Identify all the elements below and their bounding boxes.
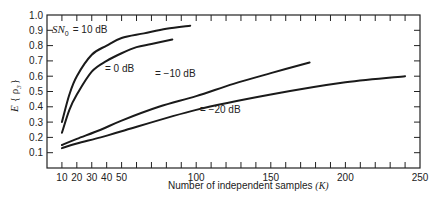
x-tick-label: 200 (337, 172, 354, 183)
x-tick-label: 250 (412, 172, 429, 183)
y-tick-label: 1.0 (29, 10, 43, 21)
y-axis-ticks (47, 30, 420, 152)
plot-frame (47, 15, 420, 168)
chart: 1020304050100150200250 0.10.20.30.40.50.… (0, 0, 436, 200)
y-tick-label: 0.5 (29, 86, 43, 97)
curves (62, 26, 405, 148)
y-tick-label: 0.3 (29, 117, 43, 128)
y-axis-label: E{ ρ3} (8, 79, 23, 113)
x-tick-label: 40 (101, 172, 113, 183)
y-tick-label: 0.4 (29, 101, 43, 112)
svg-text:E{ ρ3}: E{ ρ3} (8, 79, 23, 113)
curve-label-0db: = 0 dB (105, 63, 135, 74)
plot-border (47, 15, 420, 168)
y-tick-label: 0.7 (29, 55, 43, 66)
x-tick-label: 10 (56, 172, 68, 183)
y-tick-label: 0.6 (29, 71, 43, 82)
x-tick-label: 30 (86, 172, 98, 183)
y-tick-label: 0.8 (29, 40, 43, 51)
y-tick-label: 0.2 (29, 132, 43, 143)
x-axis-label: Number of independent samples (K) (168, 180, 329, 192)
x-tick-label: 20 (71, 172, 83, 183)
y-tick-label: 0.9 (29, 25, 43, 36)
x-tick-label: 50 (116, 172, 128, 183)
curve-label-minus10db: = −10 dB (155, 68, 196, 79)
curve-0db (62, 39, 172, 132)
x-axis-ticks (62, 15, 405, 168)
curve-label-minus20db: = −20 dB (200, 104, 241, 115)
y-axis-tick-labels: 0.10.20.30.40.50.60.70.80.91.0 (29, 10, 43, 159)
y-tick-label: 0.1 (29, 147, 43, 158)
curve-label-10db: SN0= 10 dB (52, 23, 108, 37)
